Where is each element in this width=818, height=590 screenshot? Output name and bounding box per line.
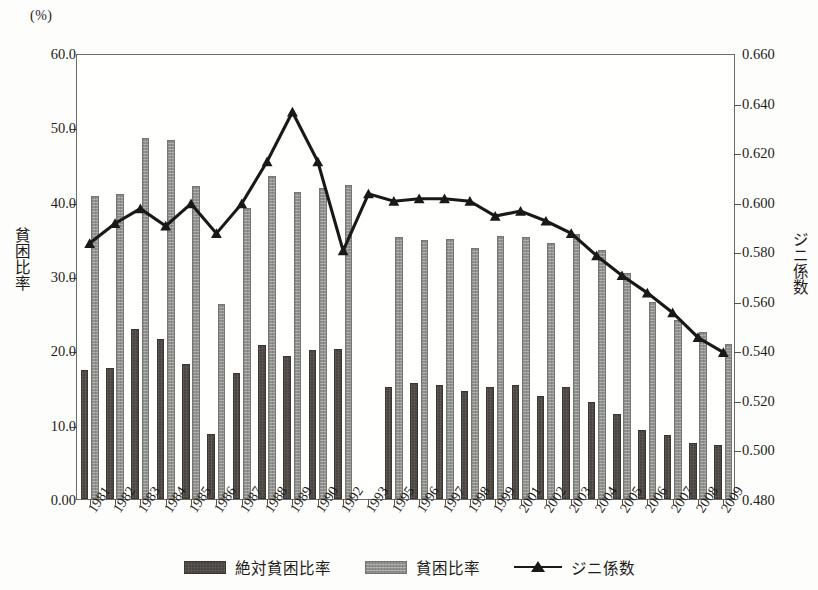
gini-marker-triangle <box>338 246 349 256</box>
gini-line-series <box>77 55 736 501</box>
unit-caption: (%) <box>30 8 53 24</box>
legend-item: 貧困比率 <box>365 556 480 578</box>
y-tick-label-right: 0.580 <box>742 244 798 261</box>
y-tick-label-left: 10.0 <box>20 417 76 434</box>
plot-area <box>76 54 735 500</box>
y-tick-label-right: 0.600 <box>742 194 798 211</box>
chart-legend: 絶対貧困比率貧困比率ジニ係数 <box>0 556 818 578</box>
y-tick-label-right: 0.640 <box>742 95 798 112</box>
legend-label: 絶対貧困比率 <box>235 556 331 578</box>
y-tick-label-right: 0.520 <box>742 392 798 409</box>
y-tick-label-right: 0.500 <box>742 442 798 459</box>
y-tick-label-left: 60.0 <box>20 46 76 63</box>
gini-marker-triangle <box>312 156 323 166</box>
y-tick-label-left: 20.0 <box>20 343 76 360</box>
y-tick-label-left: 30.0 <box>20 269 76 286</box>
gini-line-path <box>90 112 724 352</box>
legend-label: ジニ係数 <box>571 556 635 578</box>
legend-swatch-poverty <box>365 561 407 574</box>
y-tick-label-right: 0.560 <box>742 293 798 310</box>
gini-marker-triangle <box>262 156 273 166</box>
y-tick-label-right: 0.620 <box>742 145 798 162</box>
gini-marker-triangle <box>287 107 298 117</box>
cropped-title-remnant <box>0 0 818 4</box>
chart-figure: (%) 貧困比率 ジニ係数 0.0010.020.030.040.050.060… <box>0 0 818 590</box>
gini-marker-triangle <box>135 203 146 213</box>
legend-swatch-line-triangle <box>514 560 562 574</box>
y-tick-label-right: 0.480 <box>742 492 798 509</box>
gini-marker-triangle <box>186 199 197 209</box>
y-tick-label-right: 0.540 <box>742 343 798 360</box>
y-axis-title-right: ジニ係数 <box>792 232 810 296</box>
legend-item: ジニ係数 <box>514 556 635 578</box>
legend-swatch-absolute-poverty <box>184 561 226 574</box>
legend-label: 貧困比率 <box>416 556 480 578</box>
triangle-icon <box>531 561 545 572</box>
y-tick-label-left: 40.0 <box>20 194 76 211</box>
y-tick-label-left: 50.0 <box>20 120 76 137</box>
y-tick-label-left: 0.00 <box>20 492 76 509</box>
y-tick-label-right: 0.660 <box>742 46 798 63</box>
legend-item: 絶対貧困比率 <box>184 556 331 578</box>
